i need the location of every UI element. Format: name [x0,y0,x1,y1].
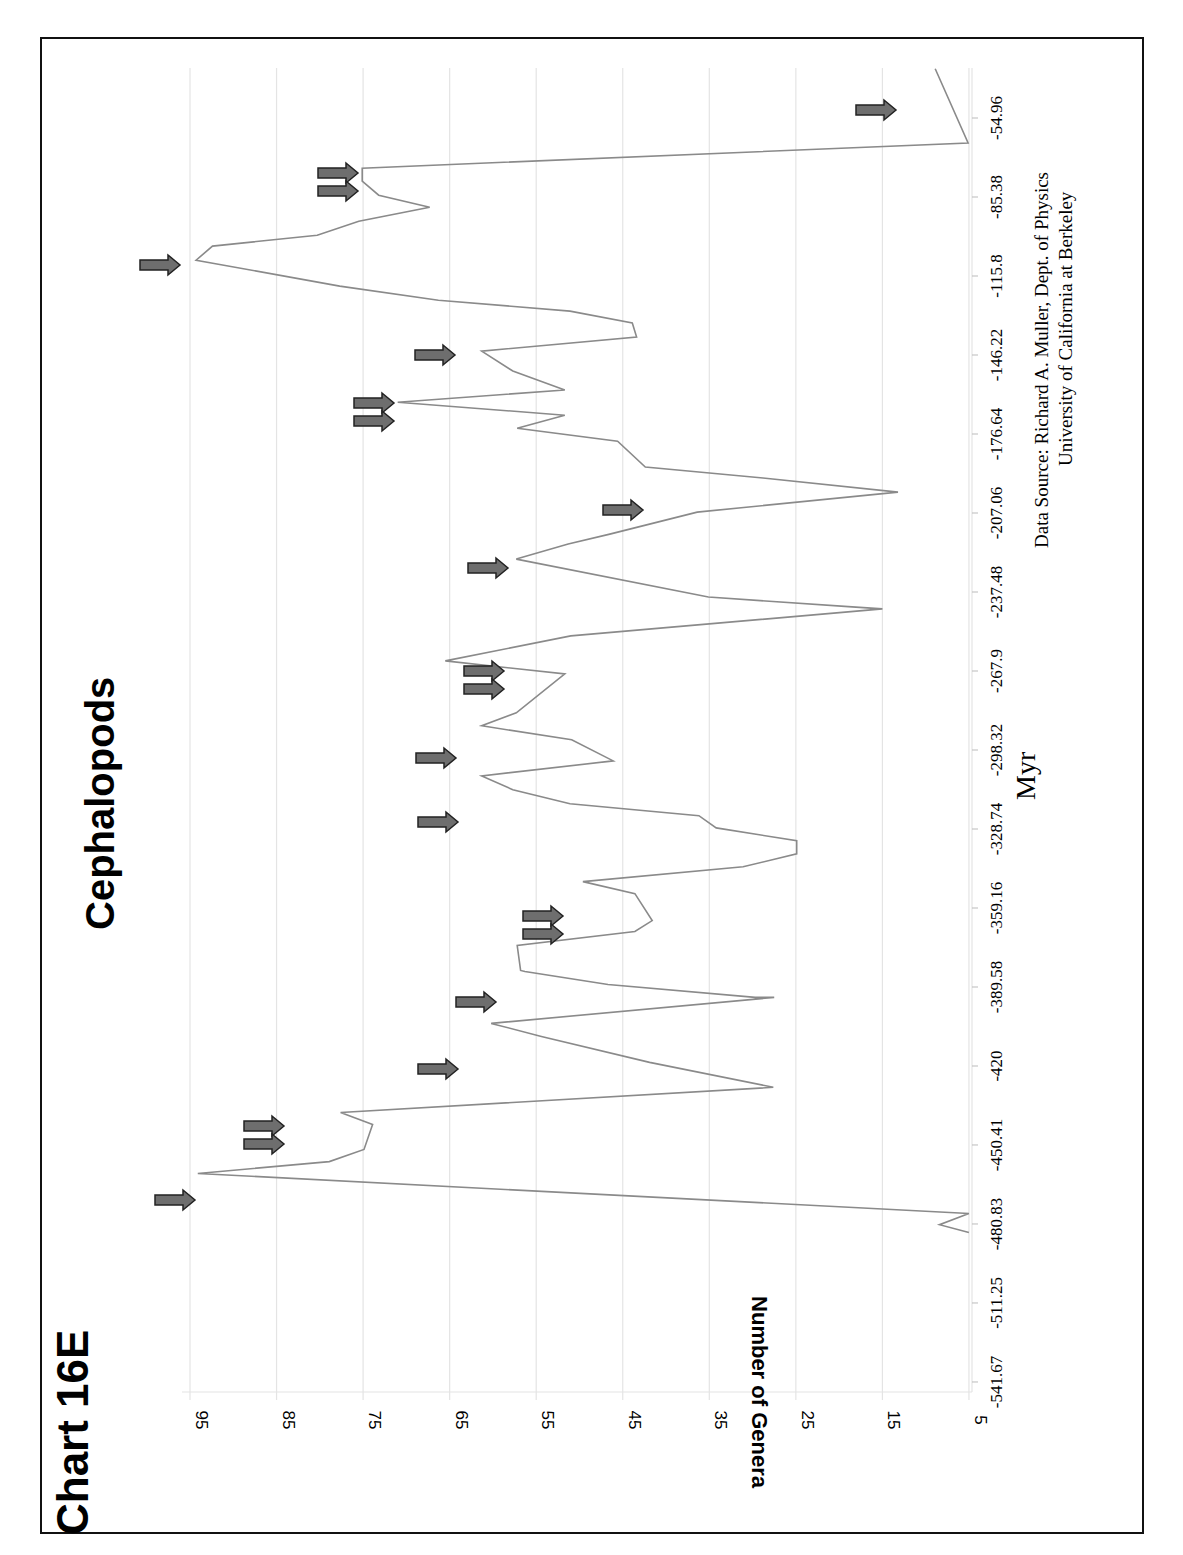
x-tick-label: -298.32 [987,724,1006,776]
extinction-arrow-icon [418,812,458,832]
chart-title: Cephalopods [78,677,123,930]
data-source-note: Data Source: Richard A. Muller, Dept. of… [1030,172,1078,548]
extinction-arrow-icon [856,100,896,120]
x-tick-label: -541.67 [987,1355,1006,1408]
extinction-arrow-icon [354,393,394,413]
line-chart: -541.67-511.25-480.83-450.41-420-389.58-… [0,0,1183,1555]
x-tick-label: -420 [987,1050,1006,1081]
y-axis-title: Number of Genera [746,1296,772,1488]
extinction-arrow-icon [415,345,455,365]
source-line-2: University of California at Berkeley [1054,172,1078,548]
time-axis-ticks: -541.67-511.25-480.83-450.41-420-389.58-… [972,96,1006,1408]
y-tick-label: 65 [452,1411,471,1430]
x-tick-label: -359.16 [987,882,1006,934]
extinction-arrow-icon [244,1116,284,1136]
y-tick-label: 45 [625,1411,644,1430]
extinction-arrow-icon [354,411,394,431]
chart-number-label: Chart 16E [48,1330,98,1535]
extinction-arrow-icon [140,255,180,275]
extinction-arrow-icon [523,906,563,926]
x-tick-label: -267.9 [987,649,1006,693]
y-tick-label: 55 [538,1411,557,1430]
gridlines [182,68,972,1400]
x-tick-label: -176.64 [987,407,1006,460]
x-tick-label: -389.58 [987,961,1006,1013]
genera-series-line [196,69,969,1233]
y-tick-label: 95 [192,1411,211,1430]
extinction-arrow-icon [468,558,508,578]
extinction-arrow-icon [418,1059,458,1079]
y-tick-label: 35 [711,1411,730,1430]
y-tick-label: 75 [365,1411,384,1430]
x-tick-label: -54.96 [987,96,1006,140]
x-tick-label: -450.41 [987,1119,1006,1171]
y-tick-label: 15 [884,1411,903,1430]
x-tick-label: -207.06 [987,487,1006,539]
x-tick-label: -511.25 [987,1277,1006,1329]
extinction-arrow-icon [155,1190,195,1210]
y-tick-label: 5 [971,1415,990,1424]
extinction-arrow-icon [464,679,504,699]
source-line-1: Data Source: Richard A. Muller, Dept. of… [1030,172,1054,548]
x-tick-label: -480.83 [987,1198,1006,1250]
x-tick-label: -237.48 [987,566,1006,618]
x-tick-label: -85.38 [987,175,1006,219]
x-tick-label: -328.74 [987,802,1006,855]
y-tick-label: 25 [798,1411,817,1430]
extinction-arrow-icon [456,992,496,1012]
genera-axis-ticks: 9585756555453525155 [192,1411,990,1430]
x-tick-label: -146.22 [987,329,1006,381]
extinction-arrow-icon [244,1134,284,1154]
extinction-arrows [140,100,896,1210]
extinction-arrow-icon [318,163,358,183]
x-axis-title: Myr [1010,752,1042,800]
x-tick-label: -115.8 [987,254,1006,297]
y-tick-label: 85 [279,1411,298,1430]
extinction-arrow-icon [318,181,358,201]
